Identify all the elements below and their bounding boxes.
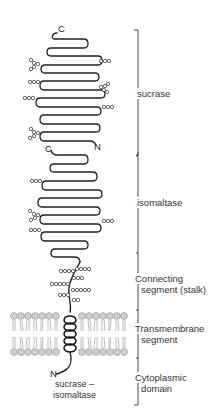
- sucrase-c-terminus-label: C: [58, 23, 65, 34]
- oligosaccharide-chains: [23, 58, 113, 301]
- domain-label-isomaltase: isomaltase: [137, 197, 182, 208]
- protein-name-label: sucrase – isomaltase: [53, 379, 96, 401]
- membrane-left: [11, 313, 60, 356]
- domain-label-transmembrane-segment: Transmembrane segment: [135, 323, 204, 345]
- domain-label-connecting-segment: Connecting segment (stalk): [135, 273, 206, 295]
- isomaltase-c-terminus-label: C: [45, 143, 52, 154]
- cytoplasmic-tail: [56, 352, 71, 374]
- membrane-right: [79, 313, 128, 356]
- isomaltase-chain: [38, 150, 102, 262]
- sucrase-chain: [36, 33, 105, 145]
- domain-label-cytoplasmic-domain: Cytoplasmic domain: [135, 372, 187, 394]
- protein-n-terminus-label: N: [50, 368, 57, 379]
- transmembrane-helix: [64, 316, 76, 352]
- sucrase-isomaltase-diagram: C N C N sucrase – isomaltase sucrase iso…: [0, 0, 224, 420]
- domain-label-sucrase: sucrase: [137, 88, 170, 99]
- lipid-bilayer: [11, 313, 128, 356]
- protein-structure-figure: [0, 0, 224, 420]
- sucrase-n-terminus-label: N: [94, 141, 101, 152]
- domain-brackets: [134, 30, 138, 405]
